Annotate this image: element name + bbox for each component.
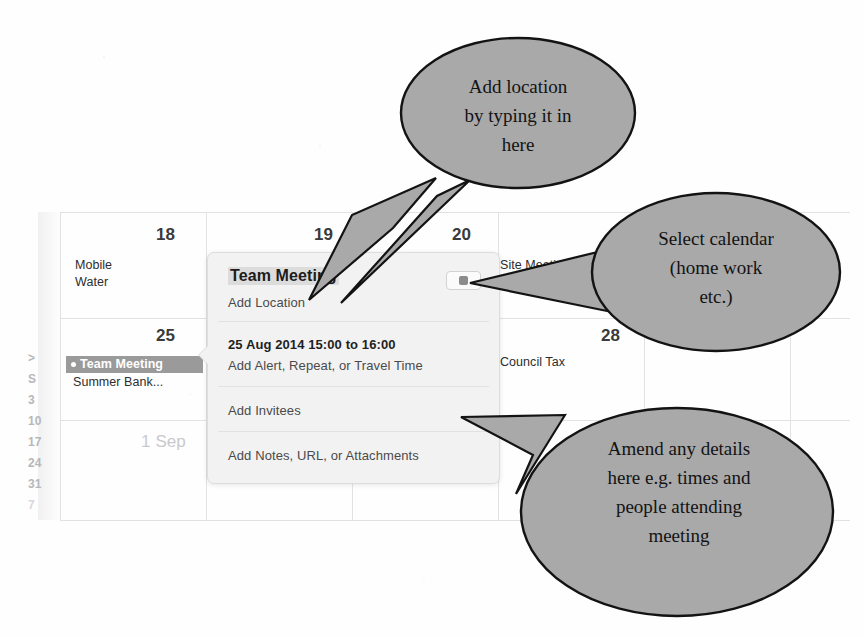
grid-line-vertical-5 [790, 212, 791, 520]
calendar-day-number-20[interactable]: 20 [452, 225, 471, 245]
calendar-event-council-tax[interactable]: Council Tax [500, 355, 565, 369]
week-number-0[interactable]: > [28, 352, 35, 364]
screenshot-root: 18192025281 Sep MobileWaterSite MeetingC… [0, 0, 865, 636]
week-number-5[interactable]: 24 [28, 457, 41, 469]
event-chip-label: Team Meeting [80, 357, 163, 371]
calendar-day-number-28[interactable]: 28 [601, 326, 620, 346]
week-number-1[interactable]: S [28, 373, 36, 385]
calendar-event-water[interactable]: Water [75, 275, 108, 289]
popover-datetime-field[interactable]: 25 Aug 2014 15:00 to 16:00 [228, 337, 396, 352]
popover-divider-2 [218, 386, 489, 387]
week-number-7[interactable]: 7 [28, 499, 35, 511]
event-detail-popover[interactable]: Team Meeting Add Location 25 Aug 2014 15… [207, 252, 500, 484]
popover-location-field[interactable]: Add Location [228, 295, 305, 310]
calendar-event-site-meeting[interactable]: Site Meeting [500, 258, 570, 272]
week-number-6[interactable]: 31 [28, 478, 41, 490]
popover-notes-field[interactable]: Add Notes, URL, or Attachments [228, 448, 419, 463]
popover-alert-field[interactable]: Add Alert, Repeat, or Travel Time [228, 358, 423, 373]
week-number-3[interactable]: 10 [28, 415, 41, 427]
calendar-day-number-1-sep[interactable]: 1 Sep [141, 432, 186, 452]
event-bullet-icon [71, 362, 76, 367]
calendar-event-summer-bank[interactable]: Summer Bank... [73, 375, 163, 389]
popover-invitees-field[interactable]: Add Invitees [228, 403, 301, 418]
calendar-day-number-18[interactable]: 18 [156, 225, 175, 245]
calendar-event-selected-team-meeting[interactable]: Team Meeting [66, 356, 203, 373]
week-number-4[interactable]: 17 [28, 436, 41, 448]
grid-line-horizontal-0 [60, 212, 850, 213]
week-number-column[interactable]: >S3101724317 [28, 352, 54, 511]
calendar-color-swatch-icon [459, 276, 468, 285]
week-number-2[interactable]: 3 [28, 394, 35, 406]
grid-line-vertical-4 [644, 212, 645, 520]
popover-title-field[interactable]: Team Meeting [228, 267, 339, 285]
grid-line-horizontal-3 [60, 520, 850, 521]
calendar-day-number-19[interactable]: 19 [314, 225, 333, 245]
popover-divider-1 [218, 321, 489, 322]
calendar-color-swatch-button[interactable] [446, 271, 481, 290]
calendar-day-number-25[interactable]: 25 [156, 326, 175, 346]
popover-divider-3 [218, 431, 489, 432]
calendar-event-mobile[interactable]: Mobile [75, 258, 112, 272]
grid-line-vertical-0 [60, 212, 61, 520]
